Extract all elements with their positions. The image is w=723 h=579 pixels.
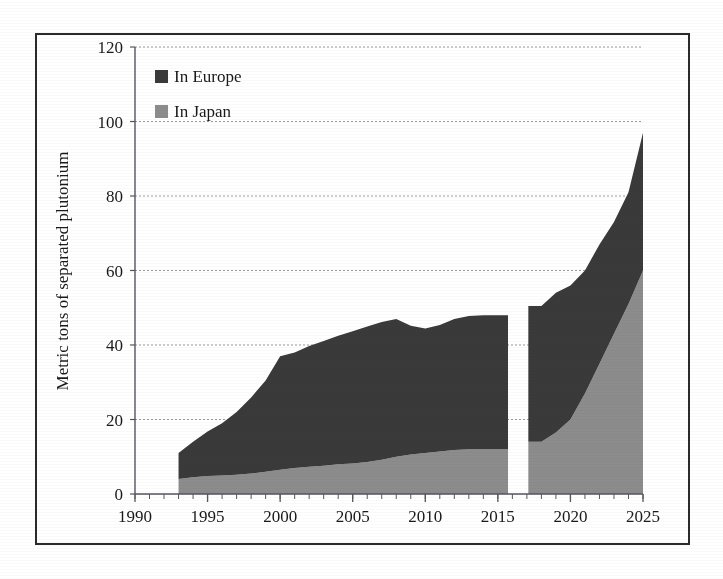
y-axis-title: Metric tons of separated plutonium — [53, 152, 72, 391]
legend-label-europe: In Europe — [174, 67, 242, 86]
legend-swatch-japan — [155, 105, 168, 118]
y-tick-label: 0 — [115, 485, 124, 504]
x-tick-label: 2020 — [553, 507, 587, 526]
y-tick-label: 120 — [98, 38, 124, 57]
x-tick-label: 1990 — [118, 507, 152, 526]
y-tick-label: 80 — [106, 187, 123, 206]
x-tick-label: 2010 — [408, 507, 442, 526]
y-axis-ticks — [130, 47, 135, 494]
x-tick-label: 2000 — [263, 507, 297, 526]
chart-legend: In Europe In Japan — [155, 67, 242, 121]
x-axis-minor-ticks — [135, 494, 643, 499]
x-tick-label: 2005 — [336, 507, 370, 526]
x-tick-label: 1995 — [191, 507, 225, 526]
x-axis-major-ticks — [135, 494, 643, 502]
y-tick-label: 60 — [106, 262, 123, 281]
y-tick-label: 20 — [106, 411, 123, 430]
y-tick-label: 40 — [106, 336, 123, 355]
x-tick-label: 2025 — [626, 507, 660, 526]
legend-swatch-europe — [155, 70, 168, 83]
legend-label-japan: In Japan — [174, 102, 232, 121]
x-axis-tick-labels: 19901995200020052010201520202025 — [118, 507, 660, 526]
y-tick-label: 100 — [98, 113, 124, 132]
plutonium-stacked-area-chart: 020406080100120 199019952000200520102015… — [0, 0, 723, 579]
x-tick-label: 2015 — [481, 507, 515, 526]
y-axis-tick-labels: 020406080100120 — [98, 38, 124, 504]
